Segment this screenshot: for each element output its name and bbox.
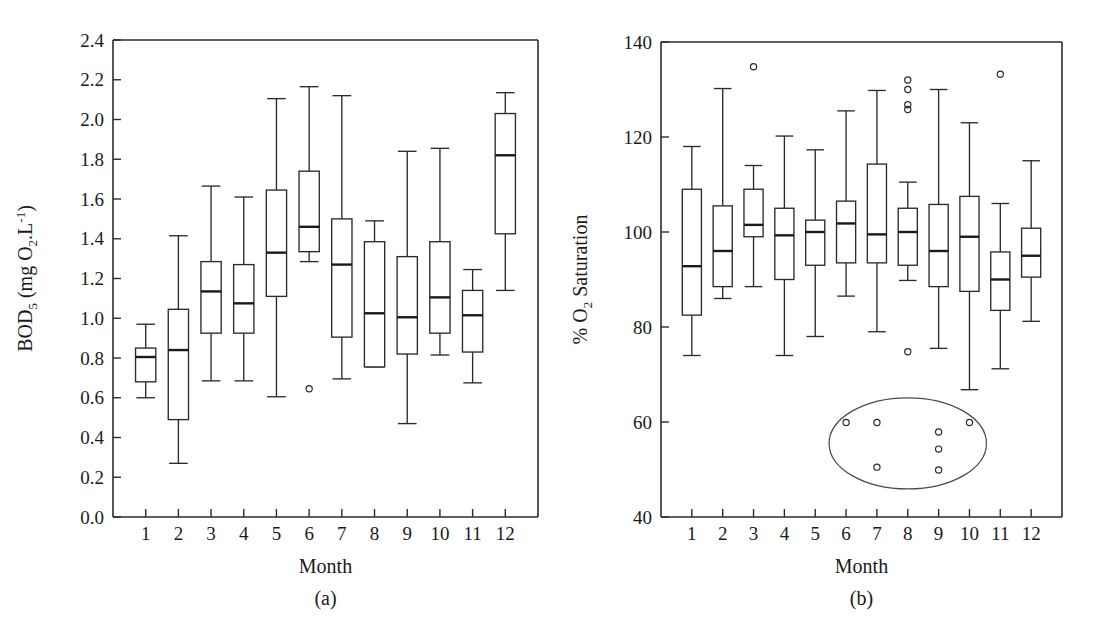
box-body bbox=[332, 219, 352, 337]
box-3 bbox=[201, 186, 221, 381]
box-10 bbox=[430, 148, 450, 355]
box-body bbox=[775, 208, 794, 279]
box-7 bbox=[332, 96, 352, 379]
x-tick-label: 9 bbox=[402, 523, 412, 544]
x-tick-label: 4 bbox=[239, 523, 249, 544]
x-tick-label: 8 bbox=[370, 523, 380, 544]
x-tick-label: 9 bbox=[934, 523, 944, 544]
y-tick-label: 80 bbox=[633, 317, 652, 338]
x-tick-label: 6 bbox=[304, 523, 314, 544]
box-body bbox=[364, 242, 384, 367]
x-tick-label: 5 bbox=[272, 523, 282, 544]
box-3 bbox=[744, 64, 763, 287]
box-body bbox=[806, 220, 825, 265]
box-8 bbox=[364, 221, 384, 367]
box-7 bbox=[867, 90, 886, 331]
x-tick-label: 6 bbox=[841, 523, 851, 544]
x-tick-label: 2 bbox=[174, 523, 184, 544]
x-tick-label: 12 bbox=[496, 523, 515, 544]
box-2 bbox=[168, 236, 188, 464]
box-body bbox=[867, 164, 886, 263]
y-tick-label: 140 bbox=[624, 32, 653, 53]
outlier-point bbox=[306, 386, 312, 392]
box-body bbox=[898, 208, 917, 265]
y-tick-label: 0.6 bbox=[80, 387, 104, 408]
y-tick-label: 1.2 bbox=[80, 268, 104, 289]
cluster-point bbox=[936, 429, 942, 435]
x-tick-label: 1 bbox=[687, 523, 697, 544]
box-body bbox=[495, 114, 515, 234]
x-tick-label: 11 bbox=[991, 523, 1009, 544]
box-body bbox=[234, 265, 254, 334]
box-body bbox=[744, 189, 763, 237]
y-tick-label: 2.0 bbox=[80, 109, 104, 130]
x-tick-label: 12 bbox=[1022, 523, 1041, 544]
y-axis-title: % O2 Saturation bbox=[569, 215, 595, 345]
box-body bbox=[713, 206, 732, 287]
box-body bbox=[266, 190, 286, 296]
box-body bbox=[1022, 228, 1041, 277]
box-body bbox=[929, 204, 948, 286]
x-axis-ticks: 123456789101112 bbox=[687, 509, 1041, 544]
box-2 bbox=[713, 89, 732, 299]
x-tick-label: 7 bbox=[872, 523, 882, 544]
outlier-point bbox=[750, 64, 756, 70]
y-tick-label: 2.4 bbox=[80, 30, 104, 51]
x-tick-label: 11 bbox=[463, 523, 481, 544]
box-body bbox=[682, 189, 701, 315]
x-tick-label: 10 bbox=[430, 523, 449, 544]
x-tick-label: 7 bbox=[337, 523, 347, 544]
outlier-point bbox=[905, 86, 911, 92]
x-tick-label: 2 bbox=[718, 523, 728, 544]
x-tick-label: 1 bbox=[141, 523, 151, 544]
y-tick-label: 1.8 bbox=[80, 149, 104, 170]
box-body bbox=[430, 242, 450, 333]
y-tick-label: 0.0 bbox=[80, 507, 104, 528]
figure-container: 0.00.20.40.60.81.01.21.41.61.82.02.22.41… bbox=[0, 0, 1117, 623]
low-saturation-cluster-ellipse bbox=[829, 398, 986, 489]
x-tick-label: 3 bbox=[749, 523, 759, 544]
y-tick-label: 1.6 bbox=[80, 189, 104, 210]
x-axis-title: Month bbox=[299, 555, 352, 577]
box-11 bbox=[462, 270, 482, 383]
y-axis-title: BOD5 (mg O2.L-1) bbox=[13, 205, 40, 352]
cluster-point bbox=[966, 419, 972, 425]
x-tick-label: 8 bbox=[903, 523, 913, 544]
y-tick-label: 120 bbox=[624, 127, 653, 148]
y-tick-label: 40 bbox=[633, 507, 652, 528]
box-body bbox=[136, 348, 156, 382]
box-1 bbox=[136, 324, 156, 398]
box-4 bbox=[234, 197, 254, 381]
box-body bbox=[168, 309, 188, 419]
cluster-point bbox=[843, 419, 849, 425]
box-8 bbox=[898, 77, 917, 355]
box-12 bbox=[1022, 161, 1041, 322]
x-tick-label: 3 bbox=[206, 523, 216, 544]
x-tick-label: 4 bbox=[780, 523, 790, 544]
box-9 bbox=[929, 90, 948, 349]
y-tick-label: 100 bbox=[624, 222, 653, 243]
y-tick-label: 2.2 bbox=[80, 69, 104, 90]
y-tick-label: 0.4 bbox=[80, 427, 104, 448]
outlier-point bbox=[997, 71, 1003, 77]
box-5 bbox=[266, 99, 286, 397]
panel-label: (b) bbox=[850, 587, 873, 610]
y-axis-ticks: 0.00.20.40.60.81.01.21.41.61.82.02.22.4 bbox=[80, 30, 121, 528]
box-body bbox=[299, 171, 319, 251]
x-axis-ticks: 123456789101112 bbox=[141, 509, 515, 544]
box-9 bbox=[397, 151, 417, 423]
x-axis-title: Month bbox=[835, 555, 888, 577]
cluster-point bbox=[936, 446, 942, 452]
plot-frame bbox=[113, 40, 538, 517]
box-10 bbox=[960, 123, 979, 390]
outlier-point bbox=[905, 349, 911, 355]
x-tick-label: 10 bbox=[960, 523, 979, 544]
y-tick-label: 1.4 bbox=[80, 228, 104, 249]
box-4 bbox=[775, 136, 794, 355]
box-1 bbox=[682, 147, 701, 356]
boxplot-panel-a: 0.00.20.40.60.81.01.21.41.61.82.02.22.41… bbox=[0, 0, 560, 623]
x-tick-label: 5 bbox=[810, 523, 820, 544]
outlier-point bbox=[905, 77, 911, 83]
box-body bbox=[991, 252, 1010, 310]
box-body bbox=[462, 290, 482, 352]
